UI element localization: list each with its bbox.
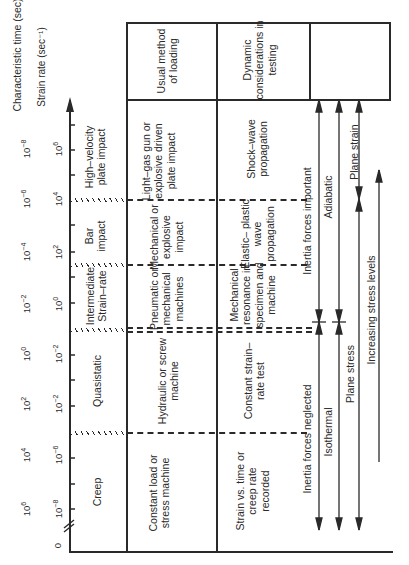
- strain-rate-tick: 10−2: [52, 389, 64, 419]
- strain-rate-tick: 10−2: [52, 339, 64, 369]
- method-pneumatic: Pneumatic or mechanical machines: [148, 264, 194, 334]
- label-isothermal: Isothermal: [322, 397, 336, 467]
- char-time-tick: 106: [20, 494, 32, 524]
- label-plane-strain: Plane strain: [348, 117, 362, 187]
- hatch-separator: [71, 431, 126, 435]
- dynamic-elastic-plastic: Elastic– plastic wave propagation: [239, 199, 283, 269]
- method-hydraulic: Hydraulic or screw machine: [156, 336, 186, 426]
- char-time-tick: 102: [20, 389, 32, 419]
- char-time-tick: 10−8: [20, 134, 32, 164]
- regime-quasistatic: Quasistatic: [91, 341, 105, 421]
- header-usual-method: Usual method of loading: [155, 28, 185, 94]
- strain-rate-tick: 10−8: [52, 494, 64, 524]
- hatch-separator: [71, 198, 126, 202]
- strain-rate-tick: 102: [52, 237, 64, 267]
- header-dynamic-considerations: Dynamic considerations in testing: [241, 20, 285, 100]
- regime-bar-impact: Bar impact: [83, 211, 111, 261]
- char-time-tick: 10−2: [20, 289, 32, 319]
- dynamic-mechanical-resonance: Mechanical resonance in specimen and mac…: [228, 260, 290, 330]
- header-right-border: [389, 22, 391, 100]
- strain-rate-tick: 106: [52, 134, 64, 164]
- char-time-tick: 10−6: [20, 184, 32, 214]
- axis-arrow-icon: [0, 0, 409, 565]
- method-constant-load: Constant load or stress machine: [147, 445, 193, 541]
- strain-rate-tick: 104: [52, 184, 64, 214]
- label-inertia-neglected: Inertia forces neglected: [301, 379, 315, 499]
- dashed-separator: [127, 432, 307, 434]
- dynamic-shock-wave: Shock–wave propagation: [245, 109, 275, 189]
- dynamic-constant-strain-rate: Constant strain– rate test: [242, 338, 272, 424]
- method-mechanical-explosive: Mechanical or explosive impact: [148, 202, 194, 272]
- char-time-tick: 10−4: [20, 237, 32, 267]
- label-inertia-important: Inertia forces important: [301, 161, 315, 281]
- origin-label: 0: [52, 543, 63, 548]
- regime-intermediate: Intermediate Strain–rate: [84, 256, 112, 336]
- baseline: [69, 551, 393, 553]
- char-time-tick: 100: [20, 339, 32, 369]
- col3-right-border: [309, 22, 311, 100]
- method-light-gas-gun: Light–gas gun or explosive driven plate …: [140, 111, 202, 211]
- col2-right-border: [216, 22, 218, 553]
- strain-rate-tick: 10−6: [52, 440, 64, 470]
- strain-rate-axis-label: Strain rate (sec⁻¹): [36, 17, 50, 117]
- characteristic-time-axis-label: Characteristic time (sec): [11, 0, 25, 125]
- regime-creep: Creep: [91, 462, 105, 522]
- char-time-tick: 104: [20, 440, 32, 470]
- label-plane-stress: Plane stress: [344, 339, 358, 409]
- label-increasing-stress: Increasing stress levels: [365, 255, 379, 365]
- regime-high-velocity: High–velocity plate impact: [83, 122, 113, 192]
- dynamic-strain-vs-time: Strain vs. time or creep rate recorded: [234, 448, 280, 534]
- col1-right-border: [126, 22, 128, 553]
- label-adiabatic: Adiabatic: [322, 167, 336, 227]
- strain-rate-tick: 100: [52, 289, 64, 319]
